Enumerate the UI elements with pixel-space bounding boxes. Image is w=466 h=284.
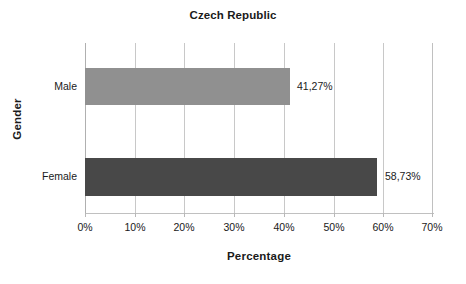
data-label-male: 41,27% [297,80,333,92]
y-axis-tick-label-male: Male [0,80,85,92]
x-axis-tick-label-70: 70% [412,221,452,233]
bar-male [85,68,290,105]
x-axis-tick-label-0: 0% [65,221,105,233]
gridline-70 [432,43,433,213]
x-axis-tick-label-20: 20% [164,221,204,233]
x-tick-0 [85,213,86,217]
x-axis-tick-label-30: 30% [214,221,254,233]
x-tick-60 [383,213,384,217]
x-tick-70 [432,213,433,217]
x-tick-20 [184,213,185,217]
data-label-female: 58,73% [385,170,421,182]
x-tick-10 [135,213,136,217]
gridline-60 [383,43,384,213]
x-axis-line [85,213,434,214]
plot-area [85,43,433,213]
x-tick-40 [284,213,285,217]
x-axis-tick-label-50: 50% [314,221,354,233]
x-tick-50 [334,213,335,217]
x-axis-tick-label-40: 40% [264,221,304,233]
y-axis-tick-label-female: Female [0,170,85,182]
x-axis-title: Percentage [85,250,433,262]
x-axis-tick-label-10: 10% [115,221,155,233]
x-tick-30 [234,213,235,217]
chart-title: Czech Republic [0,9,466,21]
x-axis-tick-label-60: 60% [363,221,403,233]
bar-female [85,158,377,196]
bar-chart: Czech Republic Gender Male Female 0% 10%… [0,0,466,284]
